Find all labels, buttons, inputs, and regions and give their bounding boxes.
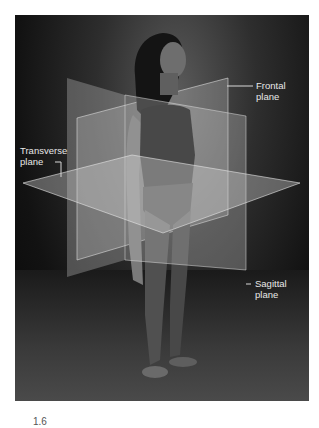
- anatomical-planes-figure: Frontal plane Transverse plane Sagittal …: [15, 15, 309, 401]
- figure-number-fragment: 1.6: [33, 416, 47, 427]
- label-frontal-plane: Frontal plane: [256, 80, 286, 102]
- label-sagittal-plane: Sagittal plane: [255, 278, 287, 300]
- planes-illustration: [15, 15, 309, 401]
- label-transverse-plane: Transverse plane: [20, 145, 67, 167]
